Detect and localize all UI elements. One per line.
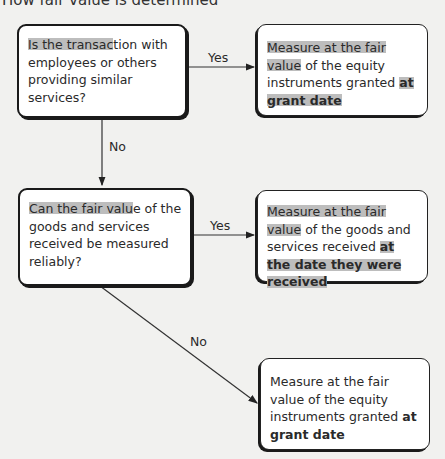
outcome-box-equity-grant-date-1: Measure at the fair value of the equity … [257,24,428,116]
decision-box-similar-services: Is the transaction with employees or oth… [17,24,187,118]
highlighted-text: Can the fair valu [29,201,133,216]
outcome-text: Measure at the fair value of the equity … [270,374,402,424]
edge-label-no-1: No [109,139,126,154]
outcome-box-equity-grant-date-2: Measure at the fair value of the equity … [260,358,430,450]
edge-q2-a3 [100,286,257,403]
outcome-box-date-received: Measure at the fair value of the goods a… [257,190,428,282]
highlighted-text: Is the transac [28,37,113,52]
edge-label-yes-2: Yes [210,218,230,233]
edge-label-yes-1: Yes [208,50,228,65]
decision-box-measured-reliably: Can the fair value of the goods and serv… [18,188,192,286]
edge-label-no-2: No [190,334,207,349]
